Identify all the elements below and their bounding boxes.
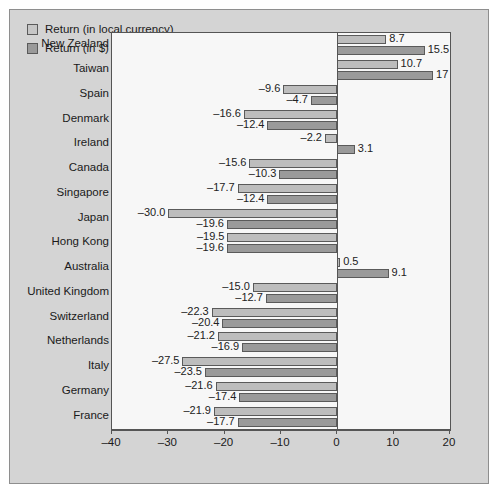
x-axis-tick bbox=[393, 430, 394, 434]
x-axis-tick bbox=[224, 430, 225, 434]
plot-area: 8.715.510.717–9.6–4.7–16.6–12.4–2.23.1–1… bbox=[111, 32, 451, 430]
bar-value-label: –16.9 bbox=[212, 342, 240, 351]
bar-value-label: –30.0 bbox=[138, 208, 166, 217]
chart-figure: Return (in local currency) Return (in $)… bbox=[9, 9, 489, 484]
x-axis-tick-label: 10 bbox=[386, 436, 399, 448]
x-axis-tick bbox=[336, 430, 337, 434]
x-axis-tick bbox=[111, 430, 112, 434]
bar-value-label: –19.5 bbox=[197, 232, 225, 241]
x-axis-tick-label: –20 bbox=[214, 436, 233, 448]
bar-local-currency bbox=[337, 60, 397, 69]
bar-value-label: –22.3 bbox=[181, 307, 209, 316]
bar-value-label: –12.4 bbox=[237, 194, 265, 203]
category-label: Germany bbox=[13, 384, 109, 396]
x-axis-line bbox=[111, 430, 451, 431]
bar-usd bbox=[242, 343, 337, 352]
category-label: France bbox=[13, 409, 109, 421]
bar-usd bbox=[205, 368, 337, 377]
bar-usd bbox=[337, 269, 388, 278]
bar-local-currency bbox=[253, 283, 338, 292]
bar-local-currency bbox=[212, 308, 338, 317]
bar-usd bbox=[266, 294, 338, 303]
category-label: Italy bbox=[13, 359, 109, 371]
bar-value-label: –23.5 bbox=[174, 367, 202, 376]
bar-value-label: –12.4 bbox=[237, 120, 265, 129]
x-axis-tick bbox=[167, 430, 168, 434]
bar-usd bbox=[239, 393, 337, 402]
bar-value-label: –12.7 bbox=[235, 293, 263, 302]
bar-usd bbox=[238, 418, 338, 427]
category-label: Taiwan bbox=[13, 62, 109, 74]
bar-usd bbox=[227, 220, 337, 229]
bar-value-label: –21.6 bbox=[185, 381, 213, 390]
category-label: Hong Kong bbox=[13, 235, 109, 247]
x-axis-tick bbox=[449, 430, 450, 434]
category-label: New Zealand bbox=[13, 37, 109, 49]
x-axis-tick-label: 20 bbox=[443, 436, 456, 448]
bar-value-label: –10.3 bbox=[249, 169, 277, 178]
bar-usd bbox=[311, 96, 337, 105]
x-axis-tick-label: –40 bbox=[101, 436, 120, 448]
bar-value-label: –17.7 bbox=[207, 183, 235, 192]
bar-value-label: –19.6 bbox=[196, 243, 224, 252]
bar-value-label: 3.1 bbox=[358, 144, 373, 153]
category-label: Japan bbox=[13, 211, 109, 223]
bar-value-label: –17.7 bbox=[207, 417, 235, 426]
x-axis-tick-label: –30 bbox=[158, 436, 177, 448]
bar-local-currency bbox=[182, 357, 337, 366]
bar-value-label: –27.5 bbox=[152, 356, 180, 365]
category-label: Spain bbox=[13, 87, 109, 99]
x-axis-tick-label: 0 bbox=[333, 436, 339, 448]
category-label: United Kingdom bbox=[13, 285, 109, 297]
bar-usd bbox=[222, 319, 337, 328]
bar-value-label: –2.2 bbox=[301, 133, 322, 142]
bars-container: 8.715.510.717–9.6–4.7–16.6–12.4–2.23.1–1… bbox=[112, 33, 450, 429]
bar-value-label: 10.7 bbox=[401, 59, 422, 68]
bar-usd bbox=[267, 195, 337, 204]
category-label: Australia bbox=[13, 260, 109, 272]
category-label: Netherlands bbox=[13, 334, 109, 346]
bar-usd bbox=[227, 244, 337, 253]
bar-value-label: –21.2 bbox=[187, 331, 215, 340]
bar-usd bbox=[337, 71, 433, 80]
bar-value-label: –17.4 bbox=[209, 392, 237, 401]
bar-local-currency bbox=[325, 134, 337, 143]
bar-value-label: –16.6 bbox=[213, 109, 241, 118]
category-label: Denmark bbox=[13, 112, 109, 124]
bar-usd bbox=[279, 170, 337, 179]
bar-value-label: 15.5 bbox=[428, 45, 449, 54]
category-label: Singapore bbox=[13, 186, 109, 198]
bar-value-label: –19.6 bbox=[196, 219, 224, 228]
bar-value-label: –9.6 bbox=[259, 84, 280, 93]
zero-axis-line bbox=[337, 33, 338, 429]
bar-value-label: 0.5 bbox=[343, 257, 358, 266]
bar-value-label: –20.4 bbox=[192, 318, 220, 327]
bar-usd bbox=[337, 145, 354, 154]
bar-value-label: –4.7 bbox=[286, 95, 307, 104]
category-label: Switzerland bbox=[13, 310, 109, 322]
category-label: Canada bbox=[13, 161, 109, 173]
bar-value-label: 17 bbox=[436, 70, 448, 79]
bar-local-currency bbox=[168, 209, 337, 218]
x-axis: –40–30–20–1001020 bbox=[111, 430, 451, 458]
bar-value-label: –15.6 bbox=[219, 158, 247, 167]
bar-value-label: –15.0 bbox=[222, 282, 250, 291]
x-axis-tick bbox=[280, 430, 281, 434]
x-axis-tick-label: –10 bbox=[270, 436, 289, 448]
bar-value-label: –21.9 bbox=[183, 406, 211, 415]
bar-usd bbox=[337, 46, 424, 55]
bar-value-label: 8.7 bbox=[389, 34, 404, 43]
category-label: Ireland bbox=[13, 136, 109, 148]
category-axis-labels: New ZealandTaiwanSpainDenmarkIrelandCana… bbox=[10, 32, 109, 430]
bar-usd bbox=[267, 121, 337, 130]
bar-local-currency bbox=[227, 233, 337, 242]
bar-value-label: 9.1 bbox=[392, 268, 407, 277]
bar-local-currency bbox=[337, 35, 386, 44]
